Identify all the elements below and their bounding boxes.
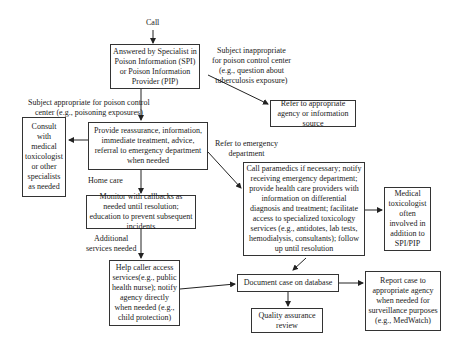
node-document: Document case on database [237, 274, 339, 292]
node-paramedics: Call paramedics if necessary; notify rec… [243, 162, 365, 256]
node-medical-toxicologist: Medical toxicologist often involved in a… [384, 187, 431, 251]
node-refer-agency: Refer to appropriate agency or informati… [270, 100, 356, 127]
edge-label-appropriate: Subject appropriate for poison control c… [28, 98, 150, 118]
edge-label-line: department [215, 149, 278, 159]
edge-label-home-care: Home care [88, 176, 123, 186]
node-quality: Quality assurance review [251, 308, 323, 333]
edge-label-emergency: Refer to emergency department [215, 139, 278, 159]
node-answered: Answered by Specialist in Poison Informa… [110, 44, 200, 89]
edge-label-line: Subject appropriate for poison control [28, 98, 150, 108]
edge-label-line: Subject inappropriate [212, 46, 291, 56]
call-label: Call [146, 18, 159, 28]
edge-label-line: Additional [86, 234, 136, 244]
node-monitor: Monitor with callbacks as needed until r… [86, 195, 196, 229]
edge-label-line: Refer to emergency [215, 139, 278, 149]
node-report: Report case to appropriate agency when n… [365, 271, 441, 331]
edge-label-line: (e.g., question about [212, 66, 291, 76]
node-consult: Consult with medical toxicologist or oth… [22, 117, 66, 197]
edge-label-inappropriate: Subject inappropriate for poison control… [212, 46, 291, 86]
node-provide: Provide reassurance, information, immedi… [88, 122, 208, 170]
edge-label-line: services needed [86, 244, 136, 254]
edge-label-additional: Additional services needed [86, 234, 136, 254]
flowchart-canvas: Call Answered by Specialist in Poison In… [0, 0, 461, 348]
edge-label-line: tuberculosis exposure) [212, 76, 291, 86]
arrow-help-to-document [180, 284, 235, 289]
arrow-paramedics-to-document [293, 258, 306, 270]
edge-label-line: for poison control center [212, 56, 291, 66]
node-help-caller: Help caller access services(e.g., public… [109, 260, 180, 326]
